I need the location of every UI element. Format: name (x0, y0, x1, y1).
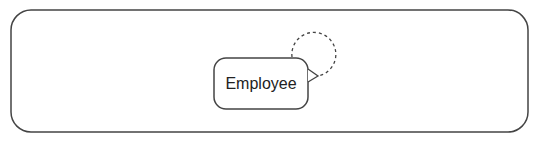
entity-employee-label: Employee (214, 58, 308, 109)
